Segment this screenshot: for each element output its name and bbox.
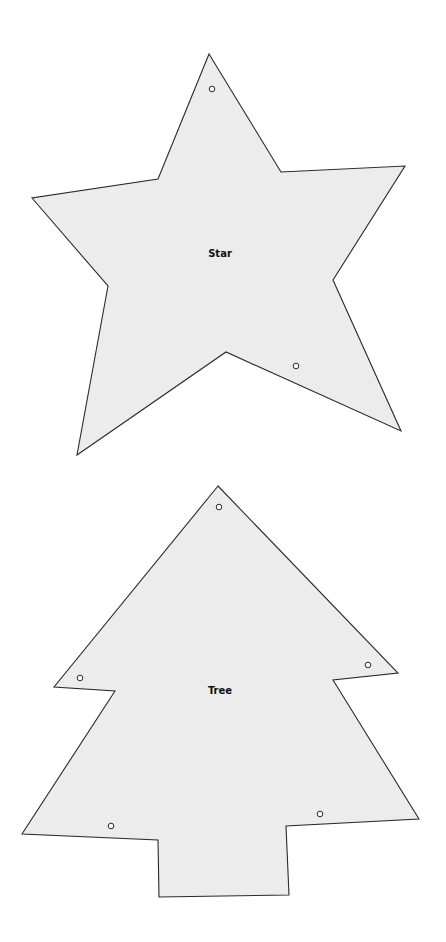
star-label: Star (208, 248, 232, 259)
punch-hole-icon (293, 363, 299, 369)
punch-hole-icon (317, 811, 323, 817)
punch-hole-icon (77, 675, 83, 681)
punch-hole-icon (108, 823, 114, 829)
tree-label: Tree (208, 685, 232, 696)
punch-hole-icon (365, 662, 371, 668)
punch-hole-icon (209, 86, 215, 92)
punch-hole-icon (216, 504, 222, 510)
template-sheet (0, 0, 446, 942)
